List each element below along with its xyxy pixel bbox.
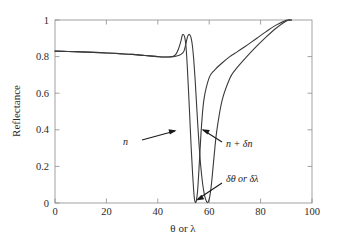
x-tick-label: 80 — [255, 206, 266, 217]
reflectance-line-chart: 0 20 40 60 80 100 0 0.2 0.4 0.6 0.8 1 θ … — [0, 0, 338, 240]
x-tick-label: 40 — [153, 206, 164, 217]
plot-frame — [55, 20, 312, 203]
x-axis-top-tick-marks — [106, 20, 260, 25]
y-tick-label: 0.6 — [36, 88, 49, 99]
y-tick-label: 0.2 — [36, 161, 49, 172]
y-tick-label: 1 — [44, 15, 49, 26]
annotation-n-plus-delta-n: n + δn — [202, 129, 253, 149]
y-axis-tick-labels: 0 0.2 0.4 0.6 0.8 1 — [36, 15, 50, 209]
annotation-delta-theta-or-delta-lambda: δθ or δλ — [196, 173, 259, 200]
annotation-n-label: n — [123, 136, 128, 147]
y-tick-label: 0 — [44, 198, 49, 209]
x-tick-label: 100 — [304, 206, 320, 217]
annotation-n: n — [123, 129, 177, 147]
x-tick-label: 60 — [204, 206, 215, 217]
y-axis-tick-marks — [55, 20, 60, 203]
y-tick-label: 0.4 — [36, 124, 50, 135]
y-axis-right-tick-marks — [308, 57, 313, 167]
x-axis-tick-marks — [55, 199, 312, 204]
x-axis-title: θ or λ — [170, 222, 196, 234]
annotation-delta-theta-label: δθ or δλ — [226, 173, 259, 184]
reflectance-chart-figure: 0 20 40 60 80 100 0 0.2 0.4 0.6 0.8 1 θ … — [0, 0, 338, 240]
x-tick-label: 20 — [101, 206, 112, 217]
x-axis-tick-labels: 0 20 40 60 80 100 — [52, 206, 320, 217]
x-tick-label: 0 — [52, 206, 57, 217]
annotation-n-plus-delta-n-label: n + δn — [226, 138, 252, 149]
y-axis-title: Reflectance — [10, 85, 22, 137]
y-tick-label: 0.8 — [36, 51, 49, 62]
